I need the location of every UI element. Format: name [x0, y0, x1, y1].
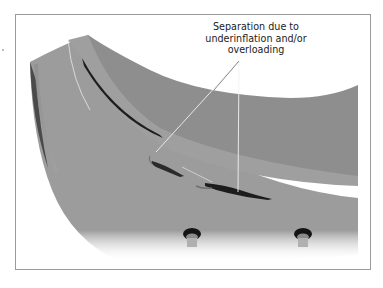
- callout-line-1: Separation due to: [186, 21, 326, 33]
- callout-label: Separation due to underinflation and/or …: [186, 21, 326, 56]
- callout-line-3: overloading: [186, 44, 326, 56]
- callout-line-2: underinflation and/or: [186, 33, 326, 45]
